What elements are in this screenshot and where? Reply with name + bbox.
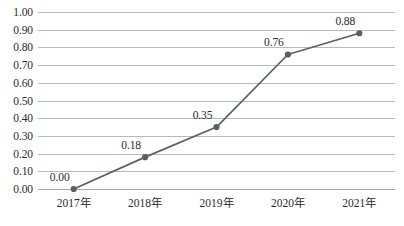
x-tick-label: 2017年 [38, 192, 109, 216]
y-tick-label: 0.30 [13, 130, 33, 142]
y-tick-label: 0.10 [13, 165, 33, 177]
data-point-label: 0.18 [121, 139, 141, 151]
y-tick-label: 0.60 [13, 77, 33, 89]
x-axis-tick-labels: 2017年2018年2019年2020年2021年 [38, 192, 395, 216]
y-tick-label: 0.90 [13, 24, 33, 36]
data-point-marker [213, 124, 219, 130]
gridline [38, 189, 395, 190]
x-tick-label: 2020年 [252, 192, 323, 216]
data-point-marker [356, 30, 362, 36]
chart-figure: 1.000.900.800.700.600.500.400.300.200.10… [0, 0, 404, 226]
data-point-label: 0.76 [264, 36, 284, 48]
y-tick-label: 0.20 [13, 148, 33, 160]
series-markers-group [71, 30, 363, 192]
data-point-label: 0.35 [193, 109, 213, 121]
y-tick-label: 1.00 [13, 6, 33, 18]
x-tick-label: 2021年 [324, 192, 395, 216]
y-tick-label: 0.70 [13, 59, 33, 71]
y-tick-label: 0.40 [13, 112, 33, 124]
x-tick-label: 2018年 [109, 192, 180, 216]
data-point-label: 0.88 [335, 15, 355, 27]
data-point-label: 0.00 [50, 171, 70, 183]
data-point-marker [142, 154, 148, 160]
x-tick-label: 2019年 [181, 192, 252, 216]
y-tick-label: 0.80 [13, 41, 33, 53]
y-tick-label: 0.00 [13, 183, 33, 195]
data-point-marker [285, 51, 291, 57]
series-line-path [74, 33, 360, 189]
line-series [38, 12, 395, 189]
plot-area: 1.000.900.800.700.600.500.400.300.200.10… [38, 12, 395, 189]
y-tick-label: 0.50 [13, 95, 33, 107]
